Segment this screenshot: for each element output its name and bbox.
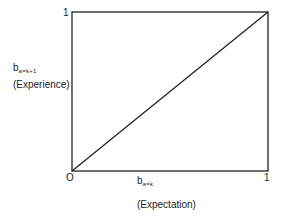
diagonal-line (72, 12, 268, 171)
y-axis-variable: ba=k+1 (13, 63, 37, 74)
x-axis-variable: ba=k (137, 176, 153, 187)
y-axis-variable-subscript: a=k+1 (19, 68, 37, 74)
y-axis-top-tick: 1 (63, 8, 69, 18)
diagram-canvas (0, 0, 282, 221)
origin-label: O (66, 173, 74, 183)
x-axis-label: (Expectation) (137, 200, 196, 210)
y-axis-label: (Experience) (13, 80, 70, 90)
x-axis-variable-subscript: a=k (143, 181, 154, 187)
x-axis-right-tick: 1 (264, 173, 270, 183)
